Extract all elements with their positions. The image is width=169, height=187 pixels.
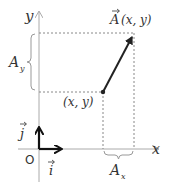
svg-text:A: A [109,12,119,27]
x-component-label: A x [108,162,126,181]
svg-text:x: x [121,172,126,181]
y-component-label: A y [7,54,25,73]
vector-a-arrow [103,37,132,92]
svg-text:A: A [7,54,19,70]
unit-vector-j-label: j [17,122,27,141]
vector-tail-point [101,90,105,94]
projection-lines [39,33,134,149]
y-component-brace [27,34,35,90]
x-component-brace [104,151,133,159]
vector-a-label: A (x, y) [109,9,152,27]
vector-tip-coords: (x, y) [121,13,152,27]
y-axis-label: y [24,7,34,25]
unit-vector-i-label: i [48,160,55,178]
x-axis-label: x [152,141,160,157]
svg-text:A: A [108,162,120,178]
origin-label: O [25,153,34,167]
svg-text:j: j [17,126,24,141]
vector-diagram: y x O A (x, y) (x, y) j i A y A x [0,0,169,187]
svg-text:i: i [49,163,53,178]
vector-tail-coords: (x, y) [63,95,94,109]
svg-text:y: y [19,64,25,73]
